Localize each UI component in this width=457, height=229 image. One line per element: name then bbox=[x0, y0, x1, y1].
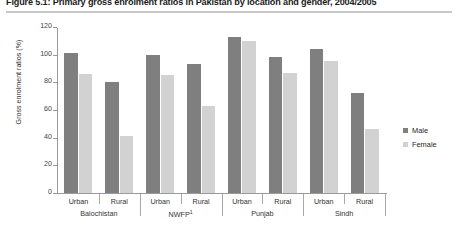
female-swatch-icon bbox=[403, 142, 408, 147]
x-group-label-nwfp: NWFP1 bbox=[141, 209, 221, 219]
tick-separator-5 bbox=[262, 194, 263, 204]
x-tick-label-7: Rural bbox=[340, 197, 390, 206]
legend-item-male[interactable]: Male bbox=[403, 125, 455, 136]
legend-label-male: Male bbox=[412, 127, 428, 134]
group-separator-4 bbox=[222, 194, 223, 216]
legend-label-female: Female bbox=[412, 141, 437, 148]
group-separator-end bbox=[385, 194, 386, 216]
chart-container: Gross enrolment ratios (%) 0204060801001… bbox=[0, 22, 457, 229]
x-group-label-sindh: Sindh bbox=[304, 209, 384, 218]
tick-separator-7 bbox=[344, 194, 345, 204]
group-separator-6 bbox=[303, 194, 304, 216]
x-group-label-punjab: Punjab bbox=[222, 209, 302, 218]
legend-item-female[interactable]: Female bbox=[403, 139, 455, 150]
male-swatch-icon bbox=[403, 128, 408, 133]
x-group-label-balochistan: Balochistan bbox=[59, 209, 139, 218]
x-axis-categories: UrbanRuralUrbanRuralUrbanRuralUrbanRural… bbox=[0, 22, 457, 229]
legend: Male Female bbox=[403, 125, 455, 153]
tick-separator-1 bbox=[99, 194, 100, 204]
title-divider bbox=[6, 11, 452, 13]
tick-separator-3 bbox=[181, 194, 182, 204]
group-separator-2 bbox=[140, 194, 141, 216]
page-title: Figure 5.1: Primary gross enrolment rati… bbox=[6, 0, 454, 7]
